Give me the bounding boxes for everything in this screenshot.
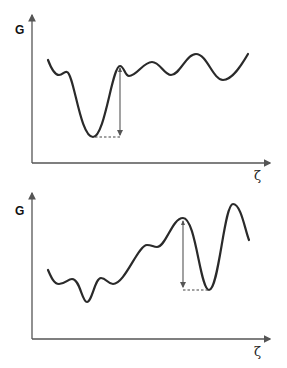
energy-landscape-diagrams: G ζ G ζ [0,0,287,368]
bottom-energy-curve [48,204,249,302]
top-panel: G ζ [15,15,270,183]
bottom-x-axis-label: ζ [254,344,261,359]
top-x-axis-label: ζ [254,168,261,183]
bottom-y-axis-label: G [15,204,24,218]
bottom-panel: G ζ [15,193,270,359]
top-y-axis-label: G [15,23,24,37]
top-energy-curve [48,54,248,137]
bottom-barrier-arrowhead-top [181,220,185,225]
